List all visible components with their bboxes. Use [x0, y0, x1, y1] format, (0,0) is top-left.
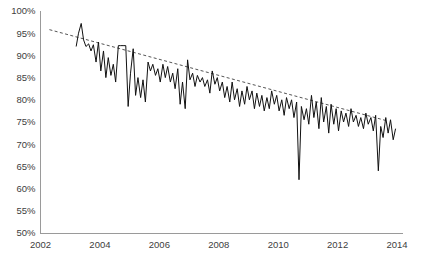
- y-tick-label: 95%: [16, 28, 36, 39]
- observed-line-series: [76, 23, 395, 179]
- y-tick-label: 85%: [16, 72, 36, 83]
- axis-lines: [41, 11, 404, 233]
- x-tick-label: 2002: [30, 239, 51, 250]
- line-chart: 100%95%90%85%80%75%70%65%60%55%50% 20022…: [0, 0, 424, 269]
- y-tick-label: 70%: [16, 139, 36, 150]
- x-tick-label: 2008: [208, 239, 229, 250]
- y-tick-label: 90%: [16, 50, 36, 61]
- y-tick-label: 80%: [16, 94, 36, 105]
- x-axis-tick-labels: 2002200420062008201020122014: [30, 239, 408, 250]
- y-axis-tick-labels: 100%95%90%85%80%75%70%65%60%55%50%: [11, 5, 36, 238]
- y-tick-label: 65%: [16, 161, 36, 172]
- trend-line-series: [49, 30, 388, 121]
- y-tick-label: 60%: [16, 183, 36, 194]
- y-tick-label: 55%: [16, 205, 36, 216]
- x-tick-label: 2004: [89, 239, 110, 250]
- y-tick-label: 50%: [16, 227, 36, 238]
- x-tick-label: 2006: [149, 239, 170, 250]
- y-tick-label: 75%: [16, 116, 36, 127]
- chart-container: 100%95%90%85%80%75%70%65%60%55%50% 20022…: [0, 0, 424, 269]
- x-tick-label: 2012: [327, 239, 348, 250]
- x-tick-label: 2014: [386, 239, 407, 250]
- y-tick-label: 100%: [11, 5, 36, 16]
- x-tick-label: 2010: [268, 239, 289, 250]
